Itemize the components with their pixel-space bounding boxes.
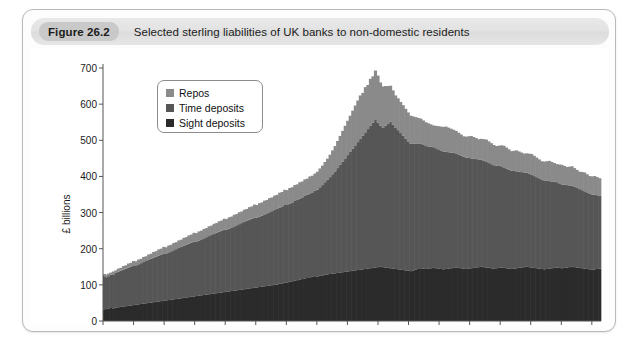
figure-header: Figure 26.2 Selected sterling liabilitie… xyxy=(31,18,609,45)
legend-swatch-sight-deposits xyxy=(166,119,174,127)
y-axis-tick-label: 700 xyxy=(73,63,97,74)
screenshot-root: Figure 26.2 Selected sterling liabilitie… xyxy=(0,0,641,351)
legend-label-sight-deposits: Sight deposits xyxy=(179,118,245,129)
y-axis-tick-label: 0 xyxy=(73,316,97,326)
figure-card: Figure 26.2 Selected sterling liabilitie… xyxy=(22,9,616,332)
y-axis-tick-label: 500 xyxy=(73,135,97,146)
chart-legend: Repos Time deposits Sight deposits xyxy=(157,80,263,133)
chart-plot-area: Repos Time deposits Sight deposits 01002… xyxy=(31,48,609,325)
legend-item-time-deposits: Time deposits xyxy=(166,101,262,115)
figure-number-badge: Figure 26.2 xyxy=(39,22,119,41)
stacked-area-chart xyxy=(31,48,609,325)
legend-item-repos: Repos xyxy=(166,86,262,100)
legend-item-sight-deposits: Sight deposits xyxy=(166,116,262,130)
legend-label-time-deposits: Time deposits xyxy=(179,103,244,114)
y-axis-tick-label: 600 xyxy=(73,99,97,110)
y-axis-tick-label: 300 xyxy=(73,207,97,218)
y-axis-tick-label: 400 xyxy=(73,171,97,182)
figure-caption: Selected sterling liabilities of UK bank… xyxy=(134,26,470,38)
legend-label-repos: Repos xyxy=(179,88,209,99)
legend-swatch-repos xyxy=(166,89,174,97)
legend-swatch-time-deposits xyxy=(166,104,174,112)
y-axis-title: £ billions xyxy=(61,194,72,233)
y-axis-tick-label: 200 xyxy=(73,243,97,254)
y-axis-tick-label: 100 xyxy=(73,279,97,290)
